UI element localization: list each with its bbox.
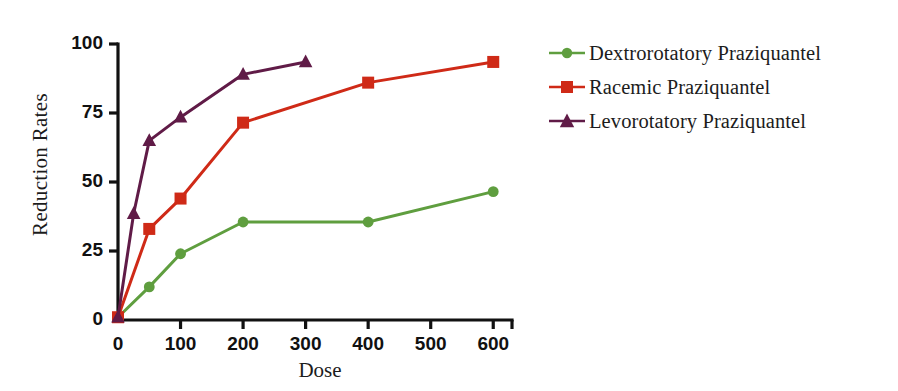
x-axis-title: Dose: [240, 358, 400, 383]
x-axis-tick-label: 100: [151, 333, 211, 355]
chart-series: [111, 55, 312, 323]
x-axis-tick-label: 600: [463, 333, 523, 355]
legend-circle-marker-icon: [545, 42, 589, 64]
y-axis-tick-label: 100: [31, 32, 103, 54]
data-point-square: [143, 223, 155, 235]
legend-item-label: Dextrorotatory Praziquantel: [589, 42, 821, 65]
x-axis-tick-label: 400: [338, 333, 398, 355]
data-point-triangle: [299, 55, 313, 68]
x-axis-tick-label: 300: [276, 333, 336, 355]
data-point-square: [487, 56, 499, 68]
data-point-square: [237, 117, 249, 129]
chart-figure: Reduction Rates Dose 0100200300400500600…: [0, 0, 898, 391]
legend-triangle-marker-icon: [545, 110, 589, 132]
data-point-circle: [175, 248, 186, 259]
data-point-triangle: [127, 206, 141, 219]
plot-area: Reduction Rates Dose 0100200300400500600…: [0, 0, 540, 391]
y-axis-title: Reduction Rates: [28, 65, 53, 265]
x-axis-tick-label: 200: [213, 333, 273, 355]
y-axis-tick-label: 75: [31, 101, 103, 123]
legend-item-label: Levorotatory Praziquantel: [589, 110, 806, 133]
chart-series: [112, 56, 499, 323]
y-axis-tick-label: 50: [31, 170, 103, 192]
data-point-triangle: [142, 133, 156, 146]
y-axis-tick-label: 0: [31, 308, 103, 330]
series-line: [118, 62, 493, 317]
legend-square-marker-icon: [545, 76, 589, 98]
legend-item-label: Racemic Praziquantel: [589, 76, 770, 99]
chart-legend: Dextrorotatory Praziquantel Racemic Praz…: [545, 36, 895, 138]
legend-item: Racemic Praziquantel: [545, 70, 895, 104]
data-point-circle: [238, 217, 249, 228]
data-point-square: [362, 77, 374, 89]
legend-item: Levorotatory Praziquantel: [545, 104, 895, 138]
series-line: [118, 192, 493, 318]
data-point-circle: [488, 186, 499, 197]
data-point-circle: [363, 217, 374, 228]
x-axis-tick-label: 500: [401, 333, 461, 355]
data-point-square: [175, 193, 187, 205]
y-axis-tick-label: 25: [31, 239, 103, 261]
legend-item: Dextrorotatory Praziquantel: [545, 36, 895, 70]
series-line: [118, 62, 306, 317]
x-axis-tick-label: 0: [88, 333, 148, 355]
data-point-circle: [144, 281, 155, 292]
data-point-triangle: [174, 110, 188, 123]
